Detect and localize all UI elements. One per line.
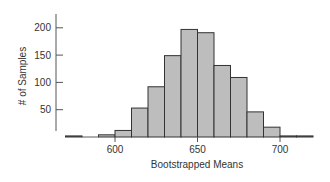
histogram-bar	[132, 108, 149, 137]
histogram-bar	[66, 136, 83, 137]
histogram-bars	[66, 29, 314, 137]
y-tick-label: 50	[40, 104, 52, 115]
x-tick-label: 600	[107, 144, 124, 155]
histogram-bar	[115, 130, 132, 137]
histogram-bar	[165, 56, 182, 137]
x-axis-label: Bootstrapped Means	[151, 159, 243, 170]
y-axis-label: # of Samples	[17, 47, 28, 105]
histogram-bar	[198, 33, 215, 137]
histogram-bar	[231, 77, 248, 137]
histogram-bar	[181, 29, 198, 137]
histogram-bar	[148, 87, 165, 137]
histogram-bar	[280, 136, 297, 137]
histogram-chart: 50100150200 600650700 # of Samples Boots…	[0, 0, 330, 182]
histogram-bar	[99, 135, 116, 137]
histogram-bar	[297, 136, 314, 137]
histogram-bar	[247, 112, 264, 137]
y-axis: 50100150200	[34, 14, 63, 131]
x-tick-label: 700	[272, 144, 289, 155]
x-tick-label: 650	[189, 144, 206, 155]
histogram-bar	[214, 65, 231, 137]
y-tick-label: 150	[34, 50, 51, 61]
x-axis: 600650700	[107, 137, 289, 155]
y-tick-label: 200	[34, 22, 51, 33]
histogram-bar	[264, 127, 281, 137]
y-tick-label: 100	[34, 77, 51, 88]
